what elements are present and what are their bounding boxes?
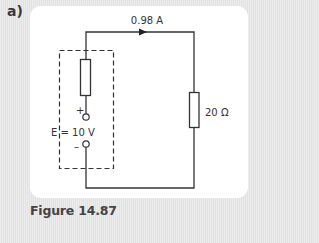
bottom-wire [86,127,194,188]
emf-label: E = 10 V [51,127,95,138]
negative-terminal [83,141,89,147]
load-resistor-label: 20 Ω [205,107,229,118]
minus-label: – [74,141,79,152]
internal-resistor [81,60,91,96]
top-wire [86,32,194,92]
current-label: 0.98 A [131,15,163,26]
plus-label: + [76,105,84,116]
figure-caption: Figure 14.87 [30,203,117,218]
current-arrow-icon [139,29,147,36]
load-resistor [190,93,200,128]
